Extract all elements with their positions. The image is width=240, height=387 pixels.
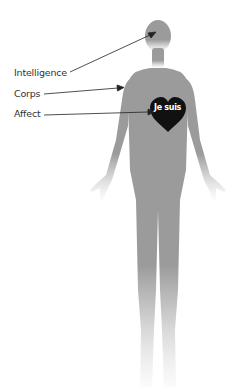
label-intelligence: Intelligence — [14, 67, 67, 78]
neck-shape — [152, 48, 164, 68]
head-shape — [145, 20, 171, 52]
arrowhead-corps — [117, 85, 124, 91]
label-affect: Affect — [14, 108, 40, 119]
human-silhouette — [90, 20, 226, 387]
human-figure-diagram: Intelligence Corps Affect Je suis — [0, 0, 240, 387]
left-arm-shape — [90, 78, 131, 200]
label-corps: Corps — [14, 88, 40, 99]
heart-label: Je suis — [154, 103, 181, 112]
arrow-corps — [44, 88, 118, 94]
figure-illustration — [0, 0, 240, 387]
right-arm-shape — [185, 78, 226, 200]
arrow-intelligence — [70, 35, 150, 72]
